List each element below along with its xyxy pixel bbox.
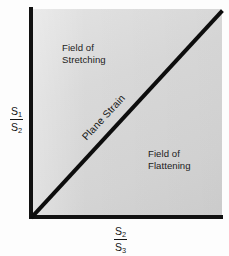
flinn-diagram-figure: Field of Stretching Field of Flattening … — [0, 0, 229, 256]
x-axis-denominator-subscript: 3 — [122, 246, 126, 255]
y-axis-numerator: S1 — [10, 104, 23, 120]
x-axis-numerator: S2 — [114, 224, 127, 240]
y-axis-label: S1 S2 — [10, 104, 23, 134]
field-of-flattening-label: Field of Flattening — [148, 148, 191, 171]
x-axis-label: S2 S3 — [114, 224, 127, 254]
y-axis-numerator-subscript: 1 — [18, 110, 22, 119]
y-axis-denominator-subscript: 2 — [18, 126, 22, 135]
x-axis-denominator: S3 — [114, 240, 127, 255]
x-axis-line — [29, 215, 223, 219]
y-axis-line — [29, 7, 33, 219]
y-axis-denominator: S2 — [10, 120, 23, 135]
field-of-stretching-label: Field of Stretching — [62, 42, 106, 65]
x-axis-numerator-subscript: 2 — [122, 230, 126, 239]
